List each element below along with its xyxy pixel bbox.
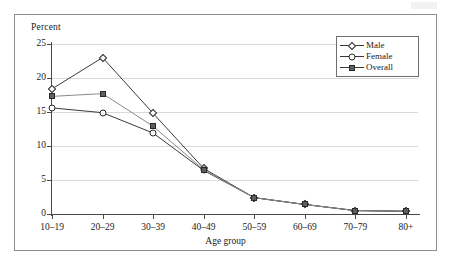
data-point-overall [100,91,106,97]
series-line-female [52,108,406,211]
data-point-female [99,109,106,116]
legend-marker-diamond-icon [340,41,364,50]
legend-marker-square-icon [340,63,364,72]
data-point-overall [251,195,257,201]
chart-figure: Percent Age group 0510152025 10–1920–293… [0,0,451,265]
legend-label-male: Male [366,41,385,50]
data-point-female [150,130,157,137]
data-point-overall [302,201,308,207]
legend: Male Female Overall [336,36,419,77]
legend-label-female: Female [366,52,393,61]
legend-item-overall[interactable]: Overall [340,62,414,73]
data-point-overall [403,208,409,214]
legend-marker-circle-icon [340,52,364,61]
legend-item-female[interactable]: Female [340,51,414,62]
series-line-male [52,58,406,212]
data-point-overall [201,167,207,173]
data-point-female [49,104,56,111]
data-point-overall [49,93,55,99]
legend-label-overall: Overall [366,63,393,72]
legend-item-male[interactable]: Male [340,40,414,51]
data-point-overall [150,123,156,129]
data-point-overall [352,208,358,214]
